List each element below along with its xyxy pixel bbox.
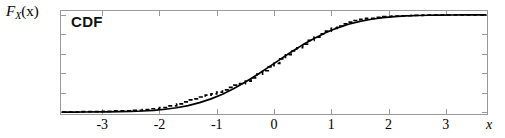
cdf-figure: FX(x) CDF x -3-2-10123 <box>0 0 505 138</box>
x-tick-label: -2 <box>144 117 174 133</box>
y-axis-label-main: F <box>6 3 15 19</box>
plot-annotation-cdf: CDF <box>71 13 103 30</box>
y-axis-label: FX(x) <box>6 3 39 21</box>
y-axis-label-argument: (x) <box>21 3 39 19</box>
x-tick-label: 0 <box>259 117 289 133</box>
x-tick-label: 3 <box>431 117 461 133</box>
empirical-cdf-curve <box>62 15 486 112</box>
x-axis-label: x <box>486 117 492 133</box>
x-tick-label: -3 <box>87 117 117 133</box>
x-tick-label: 2 <box>374 117 404 133</box>
x-tick-label: 1 <box>316 117 346 133</box>
x-tick-label: -1 <box>202 117 232 133</box>
